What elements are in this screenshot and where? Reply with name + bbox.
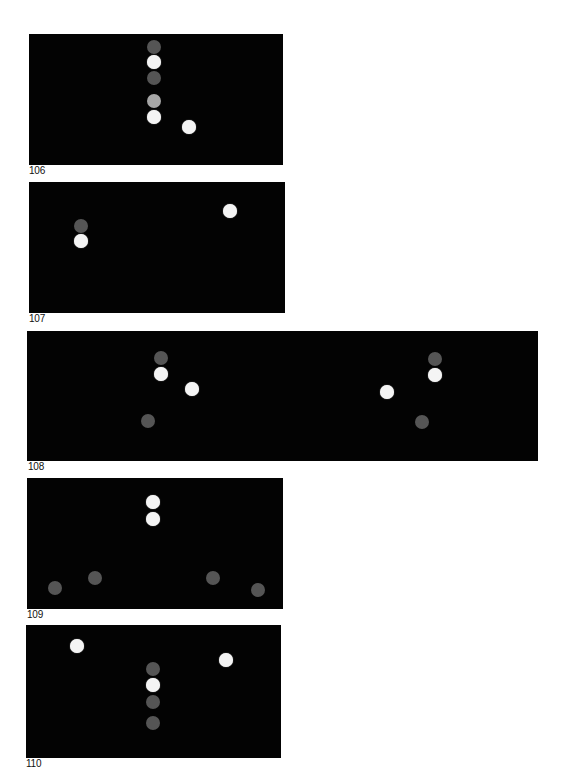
white-dot bbox=[219, 653, 233, 667]
white-dot bbox=[147, 55, 161, 69]
figure-panel-108 bbox=[27, 331, 538, 461]
white-dot bbox=[147, 110, 161, 124]
white-dot bbox=[154, 367, 168, 381]
gray-dot bbox=[206, 571, 220, 585]
white-dot bbox=[146, 678, 160, 692]
white-dot bbox=[74, 234, 88, 248]
figure-label-110: 110 bbox=[26, 759, 41, 769]
white-dot bbox=[70, 639, 84, 653]
white-dot bbox=[182, 120, 196, 134]
figure-label-106: 106 bbox=[29, 166, 45, 176]
gray-dot bbox=[146, 695, 160, 709]
gray-dot bbox=[74, 219, 88, 233]
lightgray-dot bbox=[147, 94, 161, 108]
figure-panel-107 bbox=[29, 182, 285, 313]
white-dot bbox=[146, 512, 160, 526]
gray-dot bbox=[251, 583, 265, 597]
gray-dot bbox=[146, 662, 160, 676]
gray-dot bbox=[48, 581, 62, 595]
gray-dot bbox=[415, 415, 429, 429]
white-dot bbox=[428, 368, 442, 382]
figure-label-109: 109 bbox=[27, 610, 43, 620]
figure-label-107: 107 bbox=[29, 314, 45, 324]
gray-dot bbox=[154, 351, 168, 365]
figure-label-108: 108 bbox=[28, 462, 44, 472]
gray-dot bbox=[147, 71, 161, 85]
white-dot bbox=[223, 204, 237, 218]
gray-dot bbox=[88, 571, 102, 585]
gray-dot bbox=[428, 352, 442, 366]
white-dot bbox=[380, 385, 394, 399]
gray-dot bbox=[147, 40, 161, 54]
gray-dot bbox=[141, 414, 155, 428]
white-dot bbox=[146, 495, 160, 509]
gray-dot bbox=[146, 716, 160, 730]
white-dot bbox=[185, 382, 199, 396]
